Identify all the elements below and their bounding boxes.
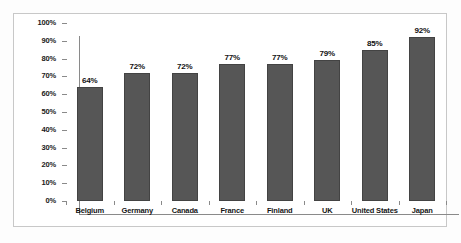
x-axis-tick-mark — [66, 201, 67, 205]
y-axis-tick-mark — [62, 59, 67, 60]
chart-frame: 100%90%80%70%60%50%40%30%20%10%0% 64%72%… — [13, 13, 447, 227]
bar — [314, 60, 340, 201]
y-axis-tick-mark — [62, 112, 67, 113]
bar-value-label: 77% — [209, 53, 257, 62]
bar-value-label: 92% — [399, 26, 447, 35]
x-axis-tick-mark — [209, 201, 210, 205]
bar-value-label: 79% — [304, 49, 352, 58]
y-axis-tick-label: 80% — [14, 55, 56, 63]
x-axis-tick-mark — [114, 201, 115, 205]
x-axis-tick-mark — [304, 201, 305, 205]
y-axis-tick-label: 70% — [14, 72, 56, 80]
y-axis-tick-label: 90% — [14, 37, 56, 45]
bar-value-label: 72% — [114, 62, 162, 71]
y-axis-tick-mark — [62, 165, 67, 166]
x-axis-tick-mark — [161, 201, 162, 205]
bar — [77, 87, 103, 201]
x-axis-tick-mark — [399, 201, 400, 205]
x-axis-category-label: Japan — [391, 206, 455, 215]
bar — [409, 37, 435, 201]
y-axis-tick-label: 50% — [14, 108, 56, 116]
x-axis-tick-mark — [351, 201, 352, 205]
bar — [267, 64, 293, 201]
bar-value-label: 85% — [351, 39, 399, 48]
y-axis-tick-label: 100% — [14, 19, 56, 27]
bar-value-label: 64% — [66, 76, 114, 85]
bar-value-label: 72% — [161, 62, 209, 71]
y-axis-tick-mark — [62, 130, 67, 131]
y-axis-tick-label: 40% — [14, 126, 56, 134]
y-axis-tick-label: 0% — [14, 197, 56, 205]
bar-value-label: 77% — [256, 53, 304, 62]
y-axis-tick-mark — [62, 148, 67, 149]
y-axis-tick-mark — [62, 183, 67, 184]
y-axis-tick-label: 20% — [14, 161, 56, 169]
x-axis-tick-mark — [256, 201, 257, 205]
x-axis-tick-mark — [446, 201, 447, 205]
chart-page: 100%90%80%70%60%50%40%30%20%10%0% 64%72%… — [0, 0, 461, 243]
bar — [219, 64, 245, 201]
y-axis-tick-label: 60% — [14, 90, 56, 98]
bar — [124, 73, 150, 201]
bar — [362, 50, 388, 201]
y-axis-tick-label: 10% — [14, 179, 56, 187]
y-axis-tick-mark — [62, 23, 67, 24]
bar — [172, 73, 198, 201]
y-axis-tick-mark — [62, 94, 67, 95]
y-axis-tick-label: 30% — [14, 144, 56, 152]
y-axis-tick-mark — [62, 41, 67, 42]
